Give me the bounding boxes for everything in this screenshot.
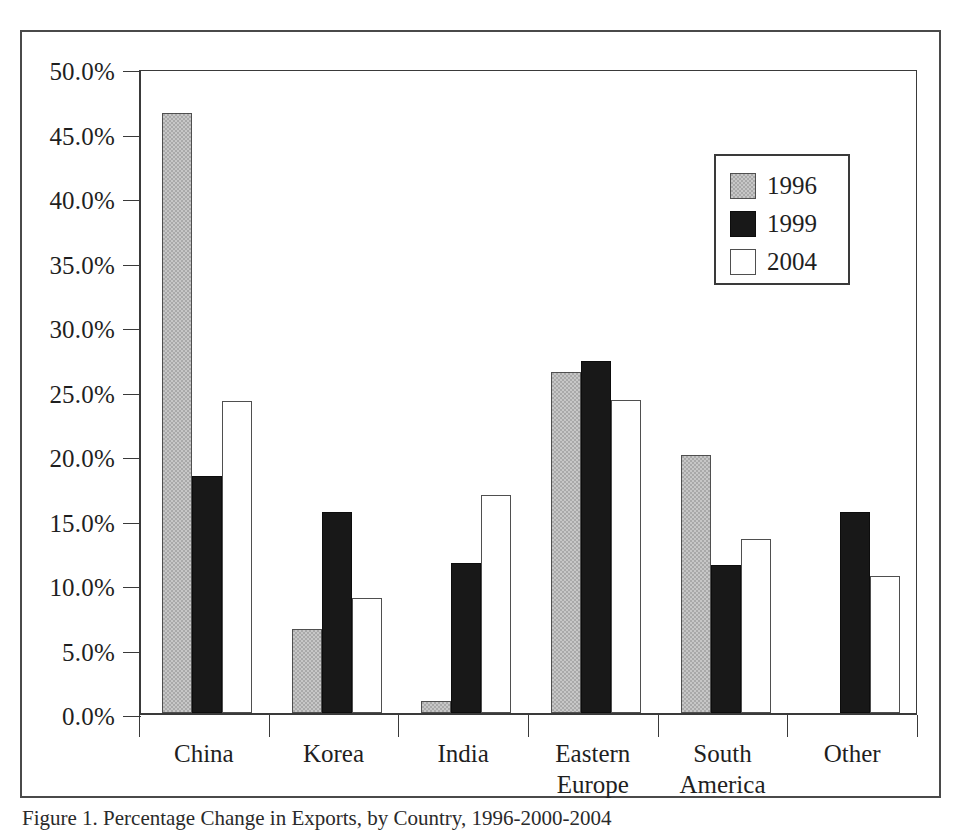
x-axis-tick <box>269 715 270 737</box>
bar-group <box>162 71 252 713</box>
y-axis-tick: 30.0% <box>123 329 141 330</box>
legend-swatch-1999 <box>730 211 756 237</box>
legend-label-1996: 1996 <box>767 172 817 200</box>
chart-legend: 199619992004 <box>714 154 850 285</box>
bar-korea-2004 <box>352 598 382 713</box>
bar-eastern-europe-2004 <box>611 400 641 713</box>
bar-group <box>421 71 511 713</box>
legend-swatch-2004 <box>730 249 756 275</box>
y-axis-tick-label: 30.0% <box>49 316 115 344</box>
y-axis-tick-label: 10.0% <box>49 574 115 602</box>
y-axis-tick: 20.0% <box>123 458 141 459</box>
x-axis: ChinaKoreaIndiaEastern EuropeSouth Ameri… <box>139 715 917 795</box>
x-axis-category-label: South America <box>658 739 788 800</box>
bar-other-1999 <box>840 512 870 713</box>
bar-south-america-1996 <box>681 455 711 713</box>
y-axis-tick-label: 35.0% <box>49 252 115 280</box>
bar-india-2004 <box>481 495 511 713</box>
x-axis-tick <box>787 715 788 737</box>
y-axis-tick: 45.0% <box>123 136 141 137</box>
bar-china-2004 <box>222 401 252 713</box>
x-axis-category-label: Other <box>787 739 917 770</box>
figure-frame: 0.0%5.0%10.0%15.0%20.0%25.0%30.0%35.0%40… <box>20 30 941 798</box>
x-axis-category-label: Korea <box>269 739 399 770</box>
y-axis-tick-label: 40.0% <box>49 187 115 215</box>
bar-south-america-2004 <box>741 539 771 713</box>
legend-label-2004: 2004 <box>767 248 817 276</box>
bar-eastern-europe-1996 <box>551 372 581 713</box>
x-axis-tick <box>139 715 140 737</box>
bar-korea-1996 <box>292 629 322 713</box>
x-axis-category-label: China <box>139 739 269 770</box>
x-axis-category-label: India <box>398 739 528 770</box>
y-axis-tick-label: 50.0% <box>49 58 115 86</box>
y-axis-tick-label: 20.0% <box>49 445 115 473</box>
bar-other-2004 <box>870 576 900 713</box>
y-axis-tick: 10.0% <box>123 587 141 588</box>
legend-label-1999: 1999 <box>767 210 817 238</box>
bar-eastern-europe-1999 <box>581 361 611 713</box>
x-axis-tick <box>528 715 529 737</box>
legend-item-1996[interactable]: 1996 <box>730 168 848 204</box>
bar-group <box>551 71 641 713</box>
y-axis-tick: 25.0% <box>123 394 141 395</box>
legend-item-1999[interactable]: 1999 <box>730 206 848 242</box>
bar-group <box>292 71 382 713</box>
y-axis-tick: 5.0% <box>123 652 141 653</box>
x-axis-tick <box>658 715 659 737</box>
bar-china-1996 <box>162 113 192 713</box>
legend-item-2004[interactable]: 2004 <box>730 244 848 280</box>
bar-india-1999 <box>451 563 481 713</box>
y-axis-tick: 15.0% <box>123 523 141 524</box>
y-axis-tick-label: 45.0% <box>49 123 115 151</box>
y-axis-tick: 35.0% <box>123 265 141 266</box>
y-axis-tick-label: 0.0% <box>62 703 115 731</box>
bar-india-1996 <box>421 701 451 713</box>
y-axis-tick: 40.0% <box>123 200 141 201</box>
legend-swatch-1996 <box>730 173 756 199</box>
x-axis-tick <box>917 715 918 737</box>
x-axis-tick <box>398 715 399 737</box>
y-axis-tick-label: 15.0% <box>49 510 115 538</box>
x-axis-category-label: Eastern Europe <box>528 739 658 800</box>
y-axis-tick-label: 25.0% <box>49 381 115 409</box>
y-axis-tick: 50.0% <box>123 71 141 72</box>
bar-china-1999 <box>192 476 222 713</box>
figure-caption: Figure 1. Percentage Change in Exports, … <box>22 806 922 831</box>
y-axis-tick-label: 5.0% <box>62 639 115 667</box>
bar-korea-1999 <box>322 512 352 713</box>
bar-south-america-1999 <box>711 565 741 713</box>
